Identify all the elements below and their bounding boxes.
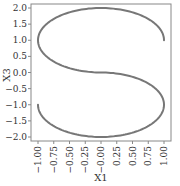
y-tick-label: −1.0 xyxy=(5,100,27,110)
x-tick-label: 1.00 xyxy=(159,146,169,166)
y-tick-label: 0.0 xyxy=(13,68,28,78)
s-curve-chart: 2.01.51.00.50.0−0.5−1.0−1.5−2.0 −1.00−0.… xyxy=(0,0,180,186)
x-tick-label: −0.00 xyxy=(96,146,106,174)
y-tick-label: 1.0 xyxy=(13,35,28,45)
x-tick-label: −0.25 xyxy=(80,146,90,174)
y-tick-label: −0.5 xyxy=(5,84,27,94)
x-tick-label: 0.50 xyxy=(128,146,138,166)
x-axis-ticks: −1.00−0.75−0.50−0.25−0.000.250.500.751.0… xyxy=(33,141,169,174)
y-tick-label: 2.0 xyxy=(13,3,28,13)
x-tick-label: 0.25 xyxy=(112,146,122,166)
y-tick-label: −1.5 xyxy=(5,116,27,126)
y-tick-label: 1.5 xyxy=(13,19,28,29)
x-tick-label: −0.50 xyxy=(65,146,75,174)
x-axis-label: X1 xyxy=(94,172,107,183)
y-axis-label: X3 xyxy=(1,68,12,81)
y-tick-label: 0.5 xyxy=(13,51,28,61)
x-tick-label: 0.75 xyxy=(143,146,153,166)
y-tick-label: −2.0 xyxy=(5,132,27,142)
curve-series xyxy=(38,8,164,137)
x-tick-label: −1.00 xyxy=(33,146,43,174)
x-tick-label: −0.75 xyxy=(49,146,59,174)
curve-line xyxy=(38,8,164,137)
